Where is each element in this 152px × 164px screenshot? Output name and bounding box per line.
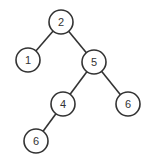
tree-edges bbox=[36, 31, 121, 131]
node-label: 6 bbox=[125, 98, 131, 110]
edge-n5-n6r bbox=[102, 71, 121, 94]
tree-node-n6r: 6 bbox=[116, 92, 140, 116]
tree-node-n5: 5 bbox=[82, 50, 106, 74]
node-label: 6 bbox=[33, 135, 39, 147]
edge-n2-n1 bbox=[36, 31, 53, 51]
binary-tree-diagram: 215466 bbox=[0, 0, 152, 164]
tree-node-n6l: 6 bbox=[24, 129, 48, 153]
edge-n2-n5 bbox=[69, 31, 87, 52]
node-label: 1 bbox=[25, 54, 31, 66]
tree-node-n2: 2 bbox=[49, 10, 73, 34]
tree-nodes: 215466 bbox=[16, 10, 140, 153]
node-label: 2 bbox=[58, 16, 64, 28]
tree-node-n4: 4 bbox=[51, 92, 75, 116]
tree-svg: 215466 bbox=[0, 0, 152, 164]
node-label: 5 bbox=[91, 56, 97, 68]
node-label: 4 bbox=[60, 98, 66, 110]
edge-n5-n4 bbox=[70, 72, 87, 95]
edge-n4-n6l bbox=[43, 114, 56, 132]
tree-node-n1: 1 bbox=[16, 48, 40, 72]
